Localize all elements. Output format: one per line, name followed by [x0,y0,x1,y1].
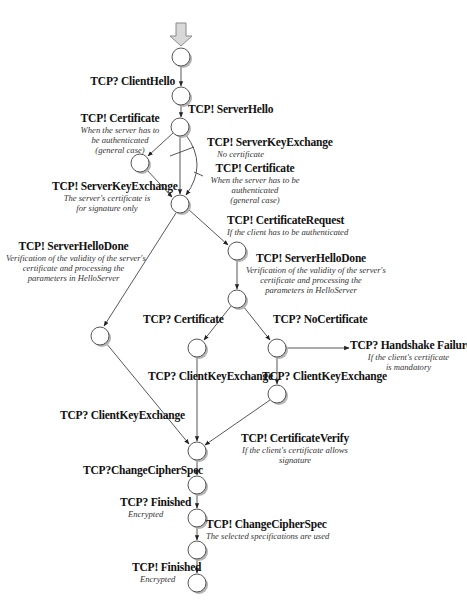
label-desc: When the server has to [80,125,160,135]
label-desc: If the client's certificate [350,352,467,362]
label-title: TCP? ClientHello [90,75,175,88]
label-title: TCP! CertificateVerify [230,432,360,445]
state-node [228,290,248,310]
edge-client-key-exchange-left [106,343,189,444]
label-desc: The server's certificate is [52,193,162,203]
state-node [228,242,248,262]
label-desc: The selected specifications are used [206,531,329,541]
label-client-key-exchange-left: TCP? ClientKeyExchange [60,409,185,422]
state-node [188,476,208,496]
label-desc: If the client has to be authenticated [227,227,348,237]
label-title: TCP! Finished [132,561,201,574]
label-title: TCP? ClientKeyExchange [148,370,273,383]
state-node [188,541,208,561]
edge-certificate-request [188,209,228,245]
label-change-cipher-spec-server: TCP! ChangeCipherSpec The selected speci… [206,518,329,541]
label-title: TCP? ClientKeyExchange [262,370,387,383]
state-node [268,385,288,405]
label-desc: certificate and processing the [6,263,141,273]
label-title: TCP! ServerKeyExchange [52,180,162,193]
label-desc: Verification of the validity of the serv… [246,265,376,275]
state-node [172,48,192,68]
label-server-hello-done-right: TCP! ServerHelloDone Verification of the… [246,252,376,295]
state-node [268,339,288,359]
label-change-cipher-spec-client: TCP?ChangeCipherSpec [83,464,203,477]
label-title: TCP? Handshake Failure [350,339,467,352]
label-desc: Encrypted [120,509,191,519]
label-client-hello: TCP? ClientHello [90,75,175,88]
edge-certificate-right [186,135,197,195]
label-desc: parameters in HelloServer [246,285,376,295]
label-client-certificate: TCP? Certificate [143,313,224,326]
label-title: TCP! ServerHelloDone [246,252,376,265]
label-desc: parameters in HelloServer [6,273,141,283]
label-title: TCP?ChangeCipherSpec [83,464,203,477]
label-title: TCP! ServerHello [188,103,273,116]
state-node [91,327,111,347]
state-node [171,118,191,138]
label-title: TCP! ChangeCipherSpec [206,518,329,531]
label-desc: When the server has to be [205,175,305,185]
label-title: TCP? ClientKeyExchange [60,409,185,422]
label-finished-client: TCP? Finished Encrypted [120,496,191,519]
label-no-certificate: TCP? NoCertificate [273,313,367,326]
label-desc: (general case) [80,145,160,155]
edge-no-certificate [243,306,270,340]
label-title: TCP! Certificate [80,112,160,125]
label-title: TCP! CertificateRequest [227,214,348,227]
label-certificate-right: TCP! Certificate When the server has to … [205,162,305,205]
label-client-key-exchange-right: TCP? ClientKeyExchange [262,370,387,383]
label-desc: Verification of the validity of the serv… [6,253,141,263]
label-certificate-request: TCP! CertificateRequest If the client ha… [227,214,348,237]
label-server-key-exchange-sig: TCP! ServerKeyExchange The server's cert… [52,180,162,213]
label-server-key-exchange-nocert: TCP! ServerKeyExchange No certificate [207,136,333,159]
label-desc: for signature only [52,203,162,213]
label-title: TCP! Certificate [205,162,305,175]
start-arrow-icon [170,23,192,46]
state-node [131,154,151,174]
label-desc: (general case) [205,195,305,205]
label-client-key-exchange-mid: TCP? ClientKeyExchange [148,370,273,383]
label-desc: certificate and processing the [246,275,376,285]
label-title: TCP! ServerHelloDone [6,240,141,253]
label-server-hello-done-left: TCP! ServerHelloDone Verification of the… [6,240,141,283]
label-server-hello: TCP! ServerHello [188,103,273,116]
state-node [188,339,208,359]
state-node [171,195,191,215]
label-desc: authenticated [205,185,305,195]
label-title: TCP? Finished [120,496,191,509]
label-desc: be authenticated [80,135,160,145]
label-title: TCP! ServerKeyExchange [207,136,333,149]
label-desc: signature [230,455,360,465]
label-title: TCP? Certificate [143,313,224,326]
label-desc: Encrypted [132,574,201,584]
label-title: TCP? NoCertificate [273,313,367,326]
label-desc: If the client's certificate allows [230,445,360,455]
label-certificate-left: TCP! Certificate When the server has to … [80,112,160,155]
label-finished-server: TCP! Finished Encrypted [132,561,201,584]
label-desc: No certificate [207,149,333,159]
label-certificate-verify: TCP! CertificateVerify If the client's c… [230,432,360,465]
label-handshake-failure: TCP? Handshake Failure If the client's c… [350,339,467,372]
tick-nocert [170,147,194,156]
